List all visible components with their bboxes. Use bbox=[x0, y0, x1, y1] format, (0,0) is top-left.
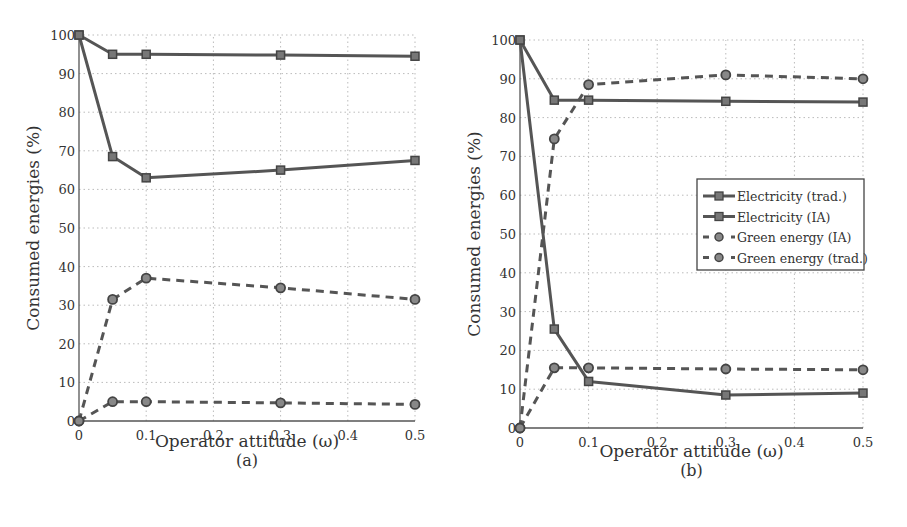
y-tick-label: 50 bbox=[499, 227, 516, 242]
legend-entry: Electricity (trad.) bbox=[737, 189, 847, 204]
square-marker bbox=[142, 174, 150, 182]
x-tick-label: 0.5 bbox=[853, 435, 874, 450]
y-tick-label: 50 bbox=[58, 221, 75, 236]
square-marker bbox=[411, 52, 419, 60]
circle-marker bbox=[411, 400, 420, 409]
legend-entry: Electricity (IA) bbox=[737, 210, 830, 225]
y-tick-label: 20 bbox=[58, 337, 75, 352]
circle-marker bbox=[550, 134, 559, 143]
circle-marker bbox=[75, 417, 84, 426]
square-marker bbox=[722, 97, 730, 105]
x-tick-label: 0 bbox=[516, 435, 524, 450]
legend-entry: Green energy (trad.) bbox=[737, 251, 868, 266]
panel-label: (a) bbox=[236, 451, 258, 470]
x-tick-label: 0.4 bbox=[784, 435, 805, 450]
x-tick-label: 0.5 bbox=[405, 428, 426, 443]
square-marker bbox=[142, 50, 150, 58]
circle-marker bbox=[276, 283, 285, 292]
circle-marker bbox=[108, 295, 117, 304]
y-tick-label: 40 bbox=[499, 266, 516, 281]
circle-marker bbox=[108, 397, 117, 406]
circle-marker bbox=[721, 70, 730, 79]
square-marker bbox=[722, 391, 730, 399]
square-marker bbox=[277, 51, 285, 59]
y-axis-label: Consumed energies (%) bbox=[464, 131, 484, 336]
square-marker bbox=[859, 389, 867, 397]
y-tick-label: 80 bbox=[499, 111, 516, 126]
x-tick-label: 0.1 bbox=[136, 428, 157, 443]
x-tick-label: 0 bbox=[75, 428, 83, 443]
y-tick-label: 100 bbox=[491, 33, 516, 48]
chart-panel-b: 00.10.20.30.40.50102030405060708090100Op… bbox=[464, 33, 873, 480]
circle-marker bbox=[859, 365, 868, 374]
chart-panel-a: 00.10.20.30.40.50102030405060708090100Op… bbox=[23, 28, 425, 470]
y-axis-label: Consumed energies (%) bbox=[23, 125, 43, 330]
y-tick-label: 30 bbox=[499, 305, 516, 320]
square-marker bbox=[585, 96, 593, 104]
circle-marker bbox=[721, 365, 730, 374]
x-axis-label: Operator attitude (ω) bbox=[155, 431, 339, 451]
panel-label: (b) bbox=[680, 461, 703, 480]
circle-marker bbox=[859, 74, 868, 83]
circle-marker bbox=[516, 424, 525, 433]
square-marker bbox=[859, 98, 867, 106]
square-marker bbox=[550, 325, 558, 333]
gridlines bbox=[79, 35, 415, 421]
circle-marker bbox=[142, 274, 151, 283]
square-marker bbox=[585, 377, 593, 385]
y-tick-label: 80 bbox=[58, 105, 75, 120]
square-marker bbox=[277, 166, 285, 174]
y-tick-label: 90 bbox=[58, 67, 75, 82]
circle-marker bbox=[276, 398, 285, 407]
y-tick-label: 100 bbox=[50, 28, 75, 43]
legend: Electricity (trad.)Electricity (IA)Green… bbox=[697, 179, 868, 270]
y-tick-label: 40 bbox=[58, 260, 75, 275]
series-electricity-trad bbox=[516, 36, 867, 106]
x-tick-label: 0.1 bbox=[578, 435, 599, 450]
circle-marker bbox=[142, 397, 151, 406]
square-marker bbox=[75, 31, 83, 39]
y-tick-label: 70 bbox=[499, 149, 516, 164]
square-marker bbox=[411, 156, 419, 164]
x-tick-label: 0.4 bbox=[337, 428, 358, 443]
square-marker bbox=[550, 96, 558, 104]
square-marker bbox=[109, 153, 117, 161]
y-tick-label: 10 bbox=[499, 382, 516, 397]
y-tick-label: 60 bbox=[499, 188, 516, 203]
square-marker bbox=[109, 50, 117, 58]
y-tick-label: 90 bbox=[499, 72, 516, 87]
y-tick-label: 70 bbox=[58, 144, 75, 159]
x-axis-label: Operator attitude (ω) bbox=[599, 441, 783, 461]
series-green-energy-trad bbox=[516, 363, 868, 432]
circle-marker bbox=[584, 363, 593, 372]
circle-marker bbox=[550, 363, 559, 372]
y-tick-label: 30 bbox=[58, 298, 75, 313]
legend-entry: Green energy (IA) bbox=[737, 230, 851, 245]
circle-marker bbox=[411, 295, 420, 304]
y-tick-label: 20 bbox=[499, 343, 516, 358]
square-marker bbox=[516, 36, 524, 44]
figure: 00.10.20.30.40.50102030405060708090100Op… bbox=[0, 0, 907, 527]
circle-marker bbox=[584, 80, 593, 89]
y-tick-label: 10 bbox=[58, 375, 75, 390]
y-tick-label: 60 bbox=[58, 182, 75, 197]
